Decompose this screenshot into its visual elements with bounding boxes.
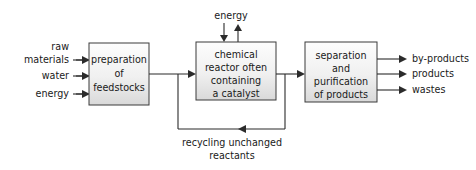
recycle-caption-line-2: reactants [209, 150, 254, 161]
connector-reactor-to-separation [276, 70, 305, 78]
output-arrow-products [377, 70, 407, 78]
input-label-energy: energy [36, 88, 70, 99]
box-reactor-line-2: reactor often [205, 62, 267, 73]
process-flow-diagram: raw materials water energy preparation o… [0, 0, 476, 170]
flow-diagram-canvas: raw materials water energy preparation o… [0, 0, 476, 170]
box-separation-line-2: and [332, 63, 350, 74]
box-separation-line-1: separation [315, 50, 366, 61]
energy-output-arrow-up [234, 24, 242, 43]
connector-preparation-to-reactor [149, 70, 196, 78]
box-preparation-line-2: of [114, 68, 124, 79]
output-label-wastes: wastes [412, 84, 445, 95]
box-separation-line-4: of products [314, 89, 368, 100]
recycle-caption-line-1: recycling unchanged [182, 137, 282, 148]
box-preparation-line-1: preparation [91, 54, 147, 65]
input-label-water: water [42, 70, 69, 81]
output-arrow-by-products [377, 55, 407, 63]
output-arrow-wastes [377, 86, 407, 94]
box-reactor-line-3: containing [211, 75, 261, 86]
output-label-products: products [412, 68, 454, 79]
box-preparation-line-3: feedstocks [93, 82, 145, 93]
box-reactor-line-4: a catalyst [213, 88, 260, 99]
input-label-raw-materials-line1: raw [51, 41, 69, 52]
energy-input-arrow-down [220, 23, 228, 42]
output-label-by-products: by-products [412, 53, 469, 64]
input-label-raw-materials-line2: materials [24, 54, 69, 65]
energy-input-label: energy [214, 10, 248, 21]
box-separation-line-3: purification [314, 76, 368, 87]
box-reactor-line-1: chemical [214, 49, 257, 60]
